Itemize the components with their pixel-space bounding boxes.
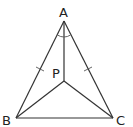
label-a: A — [59, 5, 68, 20]
triangle-diagram: A P B C — [0, 0, 133, 127]
segment-bp — [16, 81, 64, 118]
label-p: P — [52, 66, 60, 81]
label-c: C — [116, 113, 125, 127]
angle-arc-bap — [58, 35, 65, 37]
angle-arc-pac — [64, 35, 71, 37]
segment-ac — [64, 21, 113, 118]
segment-cp — [64, 81, 113, 118]
label-b: B — [2, 113, 11, 127]
